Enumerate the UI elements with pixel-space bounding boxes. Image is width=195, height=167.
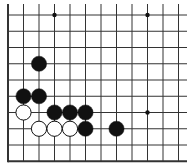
black-stone[interactable] <box>31 56 46 71</box>
black-stone[interactable] <box>109 121 124 136</box>
black-stone[interactable] <box>47 105 62 120</box>
black-stone[interactable] <box>78 121 93 136</box>
white-stone[interactable] <box>47 121 62 136</box>
board-grid <box>8 4 187 162</box>
black-stone[interactable] <box>78 105 93 120</box>
star-point-icon <box>145 110 149 114</box>
white-stone[interactable] <box>31 121 46 136</box>
go-board[interactable] <box>0 0 195 167</box>
go-board-canvas[interactable] <box>0 0 195 167</box>
star-point-icon <box>52 13 56 17</box>
black-stone[interactable] <box>31 89 46 104</box>
white-stone[interactable] <box>16 105 31 120</box>
star-point-icon <box>145 13 149 17</box>
white-stone[interactable] <box>62 121 77 136</box>
black-stone[interactable] <box>16 89 31 104</box>
black-stone[interactable] <box>62 105 77 120</box>
